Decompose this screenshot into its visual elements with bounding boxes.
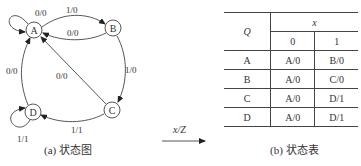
state-cell: A bbox=[224, 51, 271, 70]
state-B: B bbox=[105, 20, 121, 36]
next-state-cell: A/0 bbox=[271, 51, 315, 70]
table-row: B A/0 C/0 bbox=[224, 70, 358, 89]
transition-A-B bbox=[42, 15, 105, 27]
transition-C-D bbox=[41, 114, 104, 122]
next-state-cell: A/0 bbox=[271, 70, 315, 89]
state-D: D bbox=[25, 104, 41, 120]
transition-A-A bbox=[9, 16, 28, 32]
label-C-D: 1/1 bbox=[71, 125, 83, 135]
transition-C-A bbox=[41, 37, 106, 104]
next-state-cell: B/0 bbox=[315, 51, 358, 70]
next-state-cell: A/0 bbox=[271, 108, 315, 127]
state-A: A bbox=[26, 22, 42, 38]
next-state-cell: C/0 bbox=[315, 70, 358, 89]
label-A-A: 0/0 bbox=[35, 8, 47, 18]
svg-text:C: C bbox=[109, 105, 116, 116]
state-cell: D bbox=[224, 108, 271, 127]
next-state-cell: D/1 bbox=[315, 89, 358, 108]
state-table: Q x 0 1 A A/0 B/0 B A/0 C/0 C A/0 D/1 D … bbox=[224, 12, 358, 127]
col-header-1: 1 bbox=[315, 32, 358, 51]
label-B-C: 1/0 bbox=[125, 65, 137, 75]
next-state-cell: D/1 bbox=[315, 108, 358, 127]
table-row: A A/0 B/0 bbox=[224, 51, 358, 70]
row-header-q: Q bbox=[224, 13, 271, 51]
io-arrow-label: x/Z bbox=[173, 124, 186, 135]
label-A-B: 1/0 bbox=[66, 5, 78, 15]
table-row: D A/0 D/1 bbox=[224, 108, 358, 127]
next-state-cell: A/0 bbox=[271, 89, 315, 108]
col-header-0: 0 bbox=[271, 32, 315, 51]
state-cell: C bbox=[224, 89, 271, 108]
svg-text:D: D bbox=[29, 107, 36, 118]
label-D-A: 0/0 bbox=[6, 66, 18, 76]
label-D-D: 1/1 bbox=[17, 134, 29, 144]
col-header-x: x bbox=[271, 13, 359, 32]
state-table-caption: (b) 状态表 bbox=[270, 141, 319, 157]
transition-D-A bbox=[21, 38, 30, 105]
label-B-A: 0/0 bbox=[67, 28, 79, 38]
state-C: C bbox=[104, 102, 120, 118]
label-C-A: 0/0 bbox=[56, 71, 68, 81]
svg-text:B: B bbox=[110, 23, 117, 34]
table-row: C A/0 D/1 bbox=[224, 89, 358, 108]
state-cell: B bbox=[224, 70, 271, 89]
svg-text:A: A bbox=[30, 25, 38, 36]
state-diagram-caption: (a) 状态图 bbox=[44, 141, 92, 157]
